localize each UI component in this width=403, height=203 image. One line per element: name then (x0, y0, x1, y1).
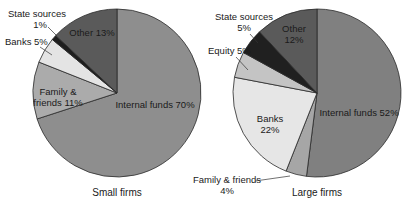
pie-slice-internal-funds (306, 9, 401, 177)
leader-small-state (48, 27, 57, 36)
label-small-family-1: Family & (40, 86, 78, 97)
label-large-state-1: State sources (215, 11, 273, 22)
label-large-internal: Internal funds 52% (319, 107, 399, 118)
caption-small-firms: Small firms (92, 187, 141, 198)
label-large-family-2: 4% (220, 185, 234, 196)
caption-large-firms: Large firms (292, 187, 342, 198)
label-small-state-1: State sources (8, 8, 66, 19)
label-large-family-1: Family & friends (193, 174, 261, 185)
label-large-equity: Equity 5% (208, 45, 251, 56)
label-small-internal: Internal funds 70% (115, 99, 195, 110)
pie-charts: Internal funds 70% Family & friends 11% … (0, 0, 403, 203)
label-large-banks-2: 22% (260, 124, 280, 135)
label-large-other-2: 12% (284, 34, 304, 45)
label-large-other-1: Other (282, 23, 306, 34)
label-small-state-2: 1% (33, 19, 47, 30)
label-small-family-2: friends 11% (33, 97, 83, 108)
label-small-other: Other 13% (69, 27, 115, 38)
label-large-banks-1: Banks (257, 113, 284, 124)
label-small-banks: Banks 5% (5, 36, 48, 47)
label-large-state-2: 5% (237, 22, 251, 33)
large-firms-pie (233, 9, 401, 177)
